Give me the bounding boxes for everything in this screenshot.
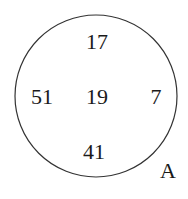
element-left: 51 (31, 84, 53, 109)
set-label: A (160, 158, 176, 183)
element-bottom: 41 (83, 139, 105, 164)
element-top: 17 (86, 29, 108, 54)
element-center: 19 (86, 84, 108, 109)
element-right: 7 (151, 84, 162, 109)
set-diagram: 17 51 19 7 41 A (0, 0, 188, 199)
